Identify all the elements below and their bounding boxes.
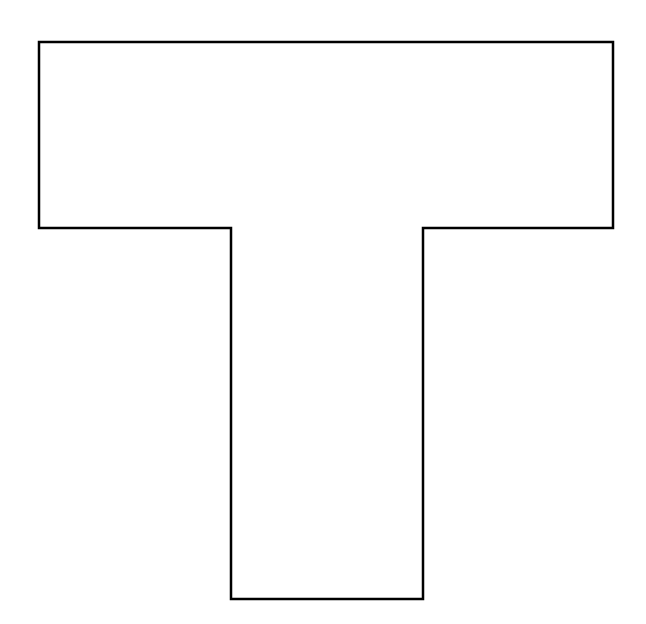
t-shape-diagram: [0, 0, 646, 624]
t-shape-outline: [39, 42, 613, 599]
